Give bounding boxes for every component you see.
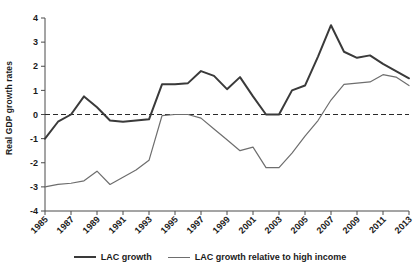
data-series-group xyxy=(45,25,409,187)
y-axis-ticks xyxy=(41,18,45,211)
legend-label-lac-relative: LAC growth relative to high income xyxy=(195,252,347,262)
chart-legend: LAC growth LAC growth relative to high i… xyxy=(0,252,420,262)
legend-item-lac-relative: LAC growth relative to high income xyxy=(168,252,347,262)
svg-text:2007: 2007 xyxy=(315,214,336,235)
svg-text:2003: 2003 xyxy=(263,214,284,235)
svg-text:1985: 1985 xyxy=(29,214,50,235)
plot-area: 43210-1-2-3-4 19851987198919911993199519… xyxy=(0,0,420,274)
svg-text:1997: 1997 xyxy=(185,214,206,235)
svg-text:4: 4 xyxy=(33,13,38,23)
chart-container: Real GDP growth rates 43210-1-2-3-4 1985… xyxy=(0,0,420,274)
svg-text:3: 3 xyxy=(33,37,38,47)
legend-line-icon-lac-growth xyxy=(74,256,96,258)
legend-line-icon-lac-relative xyxy=(168,257,190,258)
svg-text:2: 2 xyxy=(33,61,38,71)
svg-text:2009: 2009 xyxy=(341,214,362,235)
svg-text:-2: -2 xyxy=(30,158,38,168)
legend-item-lac-growth: LAC growth xyxy=(74,252,152,262)
legend-label-lac-growth: LAC growth xyxy=(101,252,152,262)
y-axis-tick-labels: 43210-1-2-3-4 xyxy=(30,13,38,216)
svg-text:2011: 2011 xyxy=(367,214,388,235)
svg-text:2005: 2005 xyxy=(289,214,310,235)
svg-text:1993: 1993 xyxy=(133,214,154,235)
svg-text:1999: 1999 xyxy=(211,214,232,235)
svg-text:1991: 1991 xyxy=(107,214,128,235)
svg-text:1995: 1995 xyxy=(159,214,180,235)
svg-text:1: 1 xyxy=(33,86,38,96)
svg-text:-3: -3 xyxy=(30,182,38,192)
svg-text:-1: -1 xyxy=(30,134,38,144)
svg-text:1989: 1989 xyxy=(81,214,102,235)
svg-text:1987: 1987 xyxy=(55,214,76,235)
svg-text:2013: 2013 xyxy=(393,214,414,235)
svg-text:0: 0 xyxy=(33,110,38,120)
svg-text:-4: -4 xyxy=(30,206,38,216)
svg-text:2001: 2001 xyxy=(237,214,258,235)
x-axis-tick-labels: 1985198719891991199319951997199920012003… xyxy=(29,214,414,235)
